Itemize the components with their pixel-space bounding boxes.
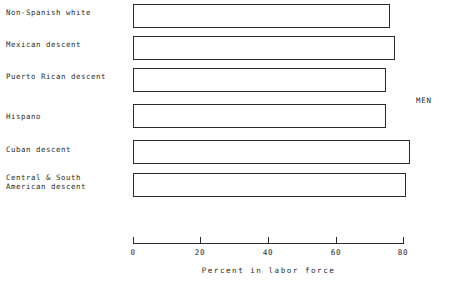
category-label: Puerto Rican descent	[6, 72, 128, 81]
x-axis-tick-label: 20	[195, 248, 205, 257]
category-label: Non-Spanish white	[6, 8, 128, 17]
category-label: Hispano	[6, 112, 128, 121]
bar-central-south-american-descent	[133, 173, 406, 197]
x-axis-tick	[200, 237, 201, 244]
x-axis-tick-label: 40	[263, 248, 273, 257]
group-annotation-men: MEN	[416, 96, 432, 105]
bar-chart: Non-Spanish white Mexican descent Puerto…	[0, 0, 452, 288]
x-axis-tick	[336, 237, 337, 244]
x-axis-tick	[133, 237, 134, 244]
category-label: Central & South American descent	[6, 173, 128, 192]
category-label: Cuban descent	[6, 145, 128, 154]
category-label: Mexican descent	[6, 40, 128, 49]
x-axis-tick-label: 60	[331, 248, 341, 257]
bar-cuban-descent	[133, 140, 410, 164]
x-axis-tick	[268, 237, 269, 244]
bar-puerto-rican-descent	[133, 68, 386, 92]
x-axis-title: Percent in labor force	[133, 266, 404, 275]
x-axis-tick	[403, 237, 404, 244]
bar-mexican-descent	[133, 36, 395, 60]
bar-non-spanish-white	[133, 4, 390, 28]
bar-hispano	[133, 104, 386, 128]
x-axis-tick-label: 80	[398, 248, 408, 257]
x-axis-tick-label: 0	[130, 248, 135, 257]
